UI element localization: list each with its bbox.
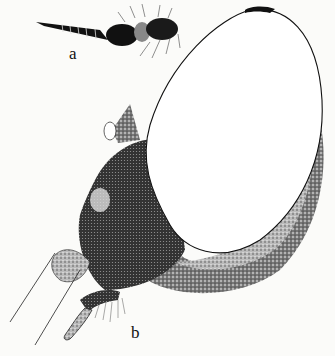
panel-label-a: a [69,44,77,64]
figure-illustration [0,0,335,356]
panel-a-structure [36,4,180,58]
panel-b-structure [10,6,324,345]
panel-label-b: b [131,323,140,343]
